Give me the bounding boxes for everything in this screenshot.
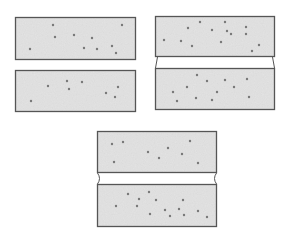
particle-dot [111, 143, 113, 145]
particle-dot [117, 86, 119, 88]
particle-dot [178, 208, 180, 210]
particle-dot [136, 205, 138, 207]
particle-dot [29, 48, 31, 50]
specimen-diagram [0, 0, 290, 239]
particle-dot [138, 198, 140, 200]
panel-tapered-gap [155, 16, 275, 110]
particle-dot [230, 33, 232, 35]
particle-dot [248, 96, 250, 98]
bottom-block [15, 70, 136, 112]
panel-parallel-gap [15, 17, 136, 112]
right-connector [273, 57, 275, 68]
particle-dot [233, 86, 235, 88]
particle-dot [186, 86, 188, 88]
top-block [155, 16, 275, 57]
bottom-block [155, 68, 275, 110]
particle-dot [30, 100, 32, 102]
particle-dot [189, 140, 191, 142]
particle-dot [176, 100, 178, 102]
particle-dot [206, 216, 208, 218]
particle-dot [96, 48, 98, 50]
particle-dot [115, 205, 117, 207]
particle-dot [197, 210, 199, 212]
particle-dot [149, 213, 151, 215]
particle-dot [216, 91, 218, 93]
particle-dot [169, 215, 171, 217]
particle-dot [113, 161, 115, 163]
left-connector [156, 57, 158, 68]
particle-dot [172, 91, 174, 93]
particle-dot [245, 33, 247, 35]
top-block [15, 17, 136, 60]
particle-dot [187, 27, 189, 29]
particle-dot [121, 24, 123, 26]
left-neck [98, 173, 100, 184]
particle-dot [180, 40, 182, 42]
particle-dot [258, 44, 260, 46]
particle-dot [83, 47, 85, 49]
particle-dot [251, 50, 253, 52]
particle-dot [114, 96, 116, 98]
particle-dot [211, 99, 213, 101]
particle-dot [196, 74, 198, 76]
particle-dot [195, 97, 197, 99]
particle-dot [148, 191, 150, 193]
particle-dot [155, 199, 157, 201]
particle-dot [81, 81, 83, 83]
particle-dot [122, 141, 124, 143]
particle-dot [224, 79, 226, 81]
particle-dot [163, 39, 165, 41]
particle-dot [66, 80, 68, 82]
particle-dot [191, 45, 193, 47]
particle-dot [91, 37, 93, 39]
particle-dot [115, 52, 117, 54]
particle-dot [224, 21, 226, 23]
particle-dot [197, 162, 199, 164]
particle-dot [127, 193, 129, 195]
particle-dot [54, 36, 56, 38]
particle-dot [105, 92, 107, 94]
particle-dot [181, 153, 183, 155]
particle-dot [226, 30, 228, 32]
particle-dot [147, 151, 149, 153]
particle-dot [206, 80, 208, 82]
particle-dot [199, 21, 201, 23]
particle-dot [158, 157, 160, 159]
panel-necked-gap [97, 131, 217, 227]
particle-dot [183, 214, 185, 216]
particle-dot [182, 199, 184, 201]
particle-dot [111, 45, 113, 47]
particle-dot [47, 85, 49, 87]
particle-dot [211, 29, 213, 31]
particle-dot [52, 24, 54, 26]
right-neck [215, 173, 217, 184]
particle-dot [68, 88, 70, 90]
particle-dot [164, 209, 166, 211]
particle-dot [246, 78, 248, 80]
top-block [97, 131, 217, 173]
particle-dot [245, 26, 247, 28]
particle-dot [220, 41, 222, 43]
particle-dot [73, 34, 75, 36]
bottom-block [97, 184, 217, 227]
particle-dot [167, 147, 169, 149]
